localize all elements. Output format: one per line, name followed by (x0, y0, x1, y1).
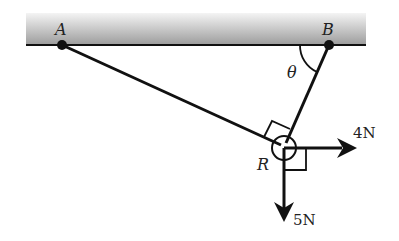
string-BR (286, 45, 329, 143)
force-5N-arrow (274, 148, 294, 222)
label-A: A (53, 20, 67, 39)
string-AR (62, 45, 281, 145)
label-R: R (256, 155, 269, 174)
point-A-marker (57, 40, 67, 50)
ceiling-fill (26, 13, 366, 45)
label-B: B (321, 20, 334, 39)
point-B-marker (324, 40, 334, 50)
theta-arc (300, 45, 317, 72)
label-theta: θ (287, 63, 297, 82)
label-force-4N: 4N (353, 124, 376, 142)
label-force-5N: 5N (293, 211, 316, 229)
force-diagram: A B θ R 4N 5N (0, 0, 399, 241)
right-angle-strings-marker (264, 121, 290, 137)
ceiling (26, 13, 366, 45)
